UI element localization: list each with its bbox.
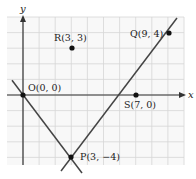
point-S-label: S(7, 0) <box>124 99 156 110</box>
x-axis-label: x <box>188 89 194 100</box>
point-R <box>69 45 74 50</box>
point-S <box>133 92 138 97</box>
point-O-label: O(0, 0) <box>28 82 61 93</box>
point-P-label: P(3, −4) <box>80 151 120 162</box>
point-O <box>20 92 25 97</box>
point-Q-label: Q(9, 4) <box>130 28 163 39</box>
point-Q <box>166 30 171 35</box>
y-axis-label: y <box>19 3 26 14</box>
point-P <box>68 154 73 159</box>
point-R-label: R(3, 3) <box>54 32 87 43</box>
coordinate-plane: x y O(0, 0) R(3, 3) Q(9, 4) S(7, 0) P(3,… <box>0 0 196 179</box>
